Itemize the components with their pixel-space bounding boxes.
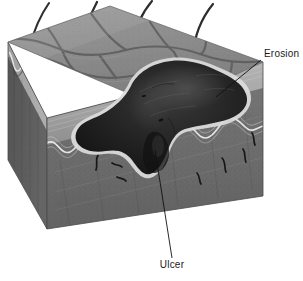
block-left-face	[8, 42, 48, 229]
figure-root: Erosion Ulcer	[0, 0, 303, 281]
lesion-highlight	[126, 73, 174, 133]
label-erosion: Erosion	[264, 48, 299, 59]
label-ulcer: Ulcer	[160, 259, 185, 270]
skin-ulcer-illustration: Erosion Ulcer	[0, 0, 303, 281]
